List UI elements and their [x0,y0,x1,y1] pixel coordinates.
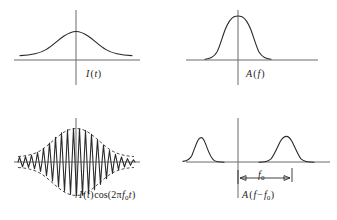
top-right-label-close: ) [261,68,264,80]
svg-text:I(t): I(t) [85,68,101,80]
br-lbl-var: A [241,189,249,200]
top-right-label: A(f) [245,68,265,80]
top-right-label-var: A [245,68,253,79]
svg-text:A(f−f0): A(f−f0) [241,189,274,202]
br-lbl-minus: − [257,189,263,200]
bottom-right-left-peak [183,138,224,163]
bl-lbl-pi: π [117,189,122,200]
f0-dimension-label: f0 [258,169,265,182]
signal-modulation-figure: I(t) A(f) [0,0,337,220]
panel-bottom-right: f0 A(f−f0) [183,118,330,202]
bl-lbl-cos: cos [94,189,107,200]
bl-lbl-close: ) [90,189,93,201]
f0-dimension-annotation: f0 [238,168,292,184]
svg-text:A(f): A(f) [245,68,265,80]
bl-lbl-paren-close: ) [132,189,135,201]
panel-top-left: I(t) [14,10,140,85]
panel-top-right: A(f) [186,10,318,85]
top-left-label: I(t) [85,68,101,80]
svg-text:I(t)cos(2πf0t): I(t)cos(2πf0t) [78,189,135,202]
top-left-label-close: ) [98,68,101,80]
top-left-label-var: I [85,68,90,79]
br-lbl-paren-close: ) [271,189,274,201]
bottom-right-right-peak [259,136,314,162]
bl-lbl-var: I [78,189,83,200]
f0-label-sub: 0 [261,174,265,182]
bottom-right-label: A(f−f0) [241,189,274,202]
bottom-left-label: I(t)cos(2πf0t) [78,189,135,202]
panel-bottom-left: I(t)cos(2πf0t) [14,118,140,202]
